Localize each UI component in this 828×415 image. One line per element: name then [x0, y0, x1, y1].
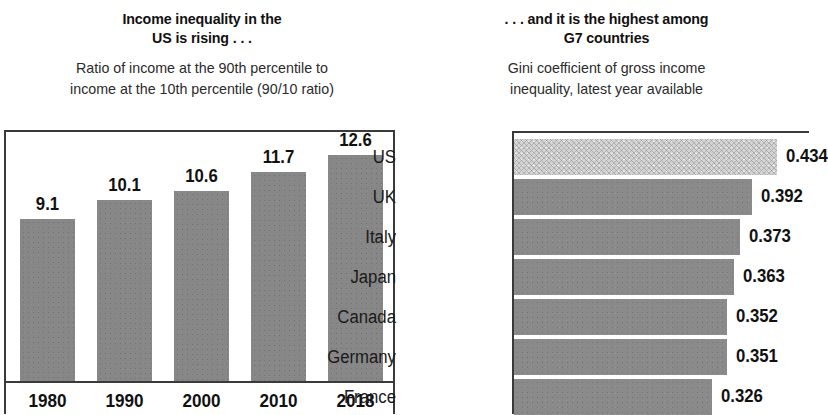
bar-value-label: 0.434: [786, 146, 828, 167]
right-panel-subtitle: Gini coefficient of gross income inequal…: [452, 57, 761, 99]
bar-chart-row: 0.363: [514, 259, 809, 295]
bar-chart-row: 0.434: [514, 139, 809, 175]
bar-category-label: Canada: [257, 306, 397, 328]
bar-fill: [514, 379, 712, 415]
column-bar-value-label: 9.1: [11, 194, 84, 215]
column-bar: [97, 200, 152, 383]
bar-category-label: Japan: [257, 266, 397, 288]
bar-value-label: 0.392: [761, 186, 803, 207]
bar-fill: [514, 219, 740, 255]
left-panel-title: Income inequality in the US is rising . …: [51, 9, 353, 47]
column-bar-group: 10.1: [97, 132, 152, 383]
column-bar-value-label: 10.6: [165, 166, 238, 187]
column-bar: [20, 219, 75, 383]
bar-chart-row: 0.326: [514, 379, 809, 415]
bar-category-label: UK: [257, 186, 397, 208]
bar-fill-highlighted: [514, 139, 777, 175]
column-chart-axis-line: [6, 381, 393, 383]
column-bar-group: 10.6: [174, 132, 229, 383]
right-panel-title: . . . and it is the highest among G7 cou…: [470, 9, 743, 47]
bar-category-label: US: [257, 146, 397, 168]
bar-value-label: 0.352: [736, 306, 778, 327]
bar-fill: [514, 179, 752, 215]
bar-chart-row: 0.392: [514, 179, 809, 215]
column-bar: [174, 191, 229, 383]
column-chart-x-tick-label: 1990: [87, 390, 162, 412]
left-panel-subtitle: Ratio of income at the 90th percentile t…: [16, 57, 388, 99]
column-bar-value-label: 10.1: [88, 175, 161, 196]
column-bar-group: 9.1: [20, 132, 75, 383]
bar-chart-row: 0.352: [514, 299, 809, 335]
bar-category-label: France: [257, 386, 397, 408]
bar-category-label: Italy: [257, 226, 397, 248]
column-chart-x-tick-label: 2000: [164, 390, 239, 412]
bar-value-label: 0.351: [736, 346, 778, 367]
bar-value-label: 0.373: [749, 226, 791, 247]
bar-category-label: Germany: [257, 346, 397, 368]
right-panel: . . . and it is the highest among G7 cou…: [404, 0, 809, 414]
bar-chart-row: 0.373: [514, 219, 809, 255]
bar-value-label: 0.326: [721, 386, 763, 407]
bar-fill: [514, 339, 727, 375]
bar-chart-row: 0.351: [514, 339, 809, 375]
horizontal-bar-chart: 0.434US0.392UK0.373Italy0.363Japan0.352C…: [512, 131, 809, 414]
bar-fill: [514, 299, 727, 335]
bar-value-label: 0.363: [743, 266, 785, 287]
bar-fill: [514, 259, 734, 295]
column-chart-x-tick-label: 1980: [10, 390, 85, 412]
